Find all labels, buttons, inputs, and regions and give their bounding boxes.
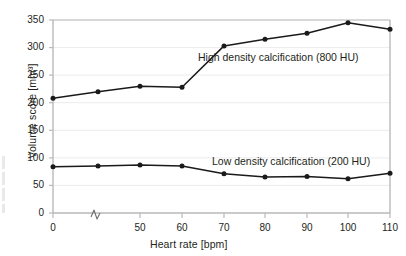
data-point bbox=[388, 27, 393, 32]
data-point bbox=[346, 176, 351, 181]
x-tick-label-100: 100 bbox=[333, 222, 363, 233]
x-tick-label-60: 60 bbox=[167, 222, 197, 233]
y-tick-label-350: 350 bbox=[10, 14, 44, 25]
x-tick-label-90: 90 bbox=[292, 222, 322, 233]
data-point bbox=[263, 37, 268, 42]
data-point bbox=[388, 171, 393, 176]
chart-plot-area bbox=[0, 0, 406, 256]
x-axis-ticks bbox=[53, 213, 390, 218]
series-label-high-density: High density calcification (800 HU) bbox=[198, 51, 358, 63]
x-tick-label-50: 50 bbox=[125, 222, 155, 233]
data-point bbox=[222, 171, 227, 176]
data-point bbox=[263, 175, 268, 180]
data-point bbox=[180, 164, 185, 169]
x-tick-label-80: 80 bbox=[250, 222, 280, 233]
y-axis-title: Volume score [mm³] bbox=[26, 31, 38, 191]
data-point bbox=[96, 89, 101, 94]
x-axis-title: Heart rate [bpm] bbox=[150, 238, 227, 250]
x-tick-label-0: 0 bbox=[38, 222, 68, 233]
x-axis-break-symbol bbox=[91, 210, 100, 219]
data-point bbox=[346, 20, 351, 25]
y-tick-label-0: 0 bbox=[10, 207, 44, 218]
series-label-low-density: Low density calcification (200 HU) bbox=[212, 155, 370, 167]
data-point bbox=[96, 164, 101, 169]
data-point bbox=[51, 96, 56, 101]
chart-figure: 350 300 250 200 150 100 50 0 0 50 60 70 … bbox=[0, 0, 406, 256]
data-point bbox=[138, 84, 143, 89]
data-point bbox=[180, 85, 185, 90]
data-point bbox=[222, 43, 227, 48]
data-point bbox=[51, 164, 56, 169]
series-low-density-calcification bbox=[51, 163, 393, 214]
data-point bbox=[305, 31, 310, 36]
data-point bbox=[138, 163, 143, 168]
data-point bbox=[305, 174, 310, 179]
x-tick-label-110: 110 bbox=[375, 222, 405, 233]
x-tick-label-70: 70 bbox=[209, 222, 239, 233]
